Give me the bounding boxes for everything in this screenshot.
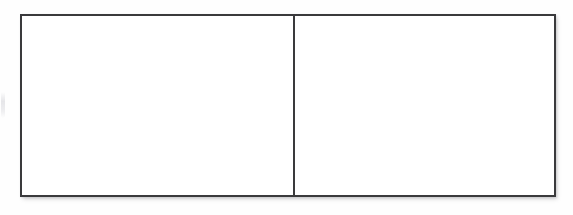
table-cell-left[interactable] (22, 16, 295, 195)
two-cell-table (20, 14, 556, 197)
table-cell-left-text (22, 16, 293, 195)
scanned-page (0, 0, 573, 215)
table-cell-right[interactable] (295, 16, 554, 195)
table-cell-right-text (295, 16, 554, 195)
scan-artifact-icon (1, 92, 5, 118)
